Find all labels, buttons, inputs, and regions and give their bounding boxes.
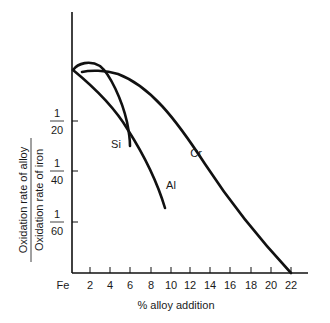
x-tick-label: 14 — [204, 279, 216, 291]
y-tick-1-den: 20 — [51, 124, 63, 136]
label-si: Si — [111, 138, 121, 150]
x-axis-title: % alloy addition — [137, 299, 214, 311]
x-tick-label: 8 — [148, 279, 154, 291]
label-al: Al — [166, 179, 176, 191]
y-title-denominator: Oxidation rate of iron — [33, 149, 45, 251]
x-tick-label: 16 — [224, 279, 236, 291]
x-ticks — [90, 267, 291, 273]
x-tick-label: 2 — [87, 279, 93, 291]
x-tick-label: 12 — [184, 279, 196, 291]
y-tick-1-num: 1 — [54, 107, 60, 119]
y-tick-3-den: 60 — [51, 225, 63, 237]
x-tick-labels: Fe 2 4 6 8 10 12 14 16 18 20 22 — [57, 279, 298, 291]
x-tick-label: 20 — [265, 279, 277, 291]
y-ticks — [72, 121, 78, 222]
x-tick-label: 10 — [165, 279, 177, 291]
y-tick-2-num: 1 — [54, 157, 60, 169]
x-tick-label: 4 — [107, 279, 113, 291]
x-origin-label: Fe — [57, 279, 70, 291]
x-tick-label: 22 — [285, 279, 297, 291]
series-cr — [82, 71, 291, 273]
chart-canvas: 1 20 1 40 1 60 Oxidation rate of alloy O… — [0, 0, 330, 323]
label-cr: Cr — [190, 147, 202, 159]
y-tick-labels: 1 20 1 40 1 60 — [50, 107, 64, 237]
x-tick-label: 6 — [127, 279, 133, 291]
y-title-numerator: Oxidation rate of alloy — [17, 146, 29, 253]
y-tick-2-den: 40 — [51, 174, 63, 186]
y-axis-title: Oxidation rate of alloy Oxidation rate o… — [17, 138, 45, 262]
x-tick-label: 18 — [245, 279, 257, 291]
y-tick-3-num: 1 — [54, 208, 60, 220]
